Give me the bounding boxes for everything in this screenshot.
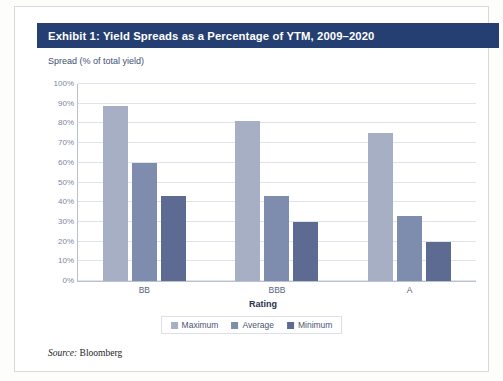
x-axis-tick-label: BB bbox=[139, 285, 150, 295]
bar-group: BB bbox=[103, 84, 186, 281]
bar-groups: BBBBBA bbox=[78, 84, 476, 281]
y-axis-tick-label: 20% bbox=[58, 236, 74, 245]
y-axis-tick-label: 50% bbox=[58, 177, 74, 186]
bar-group: BBB bbox=[235, 84, 318, 281]
y-axis-tick-label: 0% bbox=[62, 276, 74, 285]
legend-swatch-icon bbox=[171, 322, 178, 329]
source-value: Bloomberg bbox=[80, 348, 123, 358]
legend-item-minimum[interactable]: Minimum bbox=[287, 320, 332, 330]
bar-a-average[interactable] bbox=[397, 216, 422, 281]
y-axis-tick-label: 80% bbox=[58, 118, 74, 127]
legend-label: Average bbox=[242, 320, 274, 330]
y-axis-tick-label: 40% bbox=[58, 197, 74, 206]
legend-label: Minimum bbox=[298, 320, 332, 330]
chart-legend: MaximumAverageMinimum bbox=[161, 316, 343, 334]
y-axis-title: Spread (% of total yield) bbox=[48, 56, 144, 66]
x-axis-tick-label: A bbox=[407, 285, 413, 295]
page-title: Exhibit 1: Yield Spreads as a Percentage… bbox=[37, 30, 374, 42]
source-label: Source: bbox=[48, 348, 77, 358]
bar-bb-average[interactable] bbox=[132, 163, 157, 281]
chart-plot-area: 0%10%20%30%40%50%60%70%80%90%100% BBBBBA bbox=[77, 84, 476, 282]
bar-bbb-maximum[interactable] bbox=[235, 121, 260, 281]
x-axis-title: Rating bbox=[48, 299, 478, 309]
bar-bbb-minimum[interactable] bbox=[293, 222, 318, 281]
bar-a-maximum[interactable] bbox=[368, 133, 393, 281]
page-background: Exhibit 1: Yield Spreads as a Percentage… bbox=[0, 0, 503, 381]
legend-item-maximum[interactable]: Maximum bbox=[171, 320, 219, 330]
legend-item-average[interactable]: Average bbox=[231, 320, 274, 330]
legend-swatch-icon bbox=[231, 322, 238, 329]
y-axis-tick-label: 60% bbox=[58, 157, 74, 166]
bar-bb-minimum[interactable] bbox=[161, 196, 186, 281]
legend-swatch-icon bbox=[287, 322, 294, 329]
bar-group: A bbox=[368, 84, 451, 281]
source-note: Source: Bloomberg bbox=[48, 348, 122, 358]
legend-label: Maximum bbox=[182, 320, 219, 330]
exhibit-card: Exhibit 1: Yield Spreads as a Percentage… bbox=[14, 6, 489, 372]
y-axis-tick-label: 10% bbox=[58, 256, 74, 265]
y-axis-tick-label: 30% bbox=[58, 216, 74, 225]
exhibit-title-banner: Exhibit 1: Yield Spreads as a Percentage… bbox=[37, 23, 499, 48]
x-axis-tick-label: BBB bbox=[268, 285, 285, 295]
y-axis-tick-label: 90% bbox=[58, 98, 74, 107]
chart-plot-wrapper: 0%10%20%30%40%50%60%70%80%90%100% BBBBBA bbox=[48, 73, 478, 299]
y-axis-tick-label: 100% bbox=[54, 79, 74, 88]
bar-bbb-average[interactable] bbox=[264, 196, 289, 281]
bar-a-minimum[interactable] bbox=[426, 242, 451, 281]
bar-bb-maximum[interactable] bbox=[103, 106, 128, 281]
y-axis-tick-label: 70% bbox=[58, 138, 74, 147]
